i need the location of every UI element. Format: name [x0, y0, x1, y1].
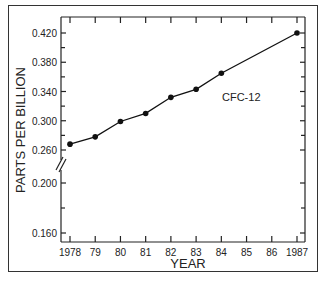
y-tick-label: 0.200 — [32, 178, 57, 189]
y-axis-label: PARTS PER BILLION — [13, 67, 28, 193]
series-annotation: CFC-12 — [222, 91, 261, 103]
axis-break-mark — [56, 157, 63, 170]
x-tick-label: 86 — [266, 247, 278, 258]
x-tick-label: 81 — [140, 247, 152, 258]
data-point — [143, 111, 149, 117]
y-tick-label: 0.340 — [32, 87, 57, 98]
data-point — [219, 70, 225, 76]
y-tick-label: 0.380 — [32, 57, 57, 68]
x-tick-label: 1987 — [286, 247, 309, 258]
data-point — [193, 87, 199, 93]
x-tick-label: 84 — [216, 247, 228, 258]
x-tick-label: 85 — [241, 247, 253, 258]
y-tick-label: 0.160 — [32, 228, 57, 239]
chart: 1978798081828384858619870.1600.2000.2600… — [0, 0, 325, 282]
data-point — [118, 119, 124, 125]
series-line-cfc-12 — [70, 33, 297, 144]
x-tick-label: 80 — [115, 247, 127, 258]
data-point — [67, 141, 73, 147]
x-tick-label: 79 — [90, 247, 102, 258]
axis-break-mark — [59, 159, 66, 172]
data-point — [168, 95, 174, 101]
x-tick-label: 1978 — [59, 247, 82, 258]
y-tick-label: 0.300 — [32, 116, 57, 127]
y-tick-label: 0.260 — [32, 145, 57, 156]
data-point — [294, 30, 300, 36]
data-point — [92, 134, 98, 140]
y-tick-label: 0.420 — [32, 28, 57, 39]
x-axis-label: YEAR — [170, 256, 205, 271]
